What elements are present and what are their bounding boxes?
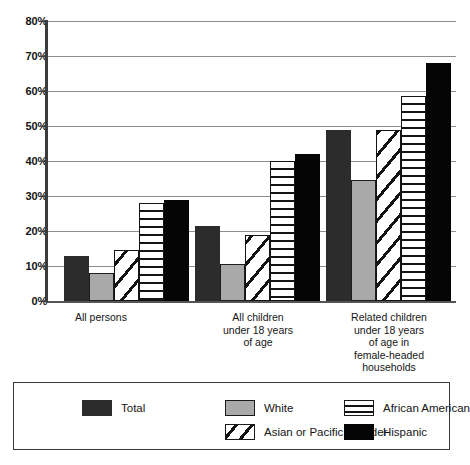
legend-swatch-hispanic	[344, 424, 374, 440]
legend-label-african: African American	[383, 402, 470, 415]
bar-group2-african	[270, 161, 295, 301]
bar-group1-white	[89, 273, 114, 301]
legend-item-african[interactable]: African American	[344, 400, 470, 416]
bar-group2-total	[195, 226, 220, 301]
bar-group3-total	[326, 130, 351, 302]
legend-swatch-total	[82, 400, 112, 416]
bar-group2-asian	[245, 235, 270, 302]
legend-swatch-asian	[225, 424, 255, 440]
bar-group3-white	[351, 180, 376, 301]
bar-group1-african	[139, 203, 164, 301]
legend-label-hispanic: Hispanic	[383, 426, 427, 439]
x-category-label-3-line-5: households	[309, 361, 469, 374]
bar-group1-hispanic	[164, 200, 189, 302]
bar-group2-hispanic	[295, 154, 320, 301]
plot-area: 0%10%20%30%40%50%60%70%80% All personsAl…	[0, 0, 464, 380]
x-category-label-1-line-1: All persons	[21, 311, 181, 324]
legend-label-white: White	[264, 402, 293, 415]
legend-item-hispanic[interactable]: Hispanic	[344, 424, 427, 440]
bar-group1-total	[64, 256, 89, 302]
bar-group2-white	[220, 264, 245, 301]
bar-group3-hispanic	[426, 63, 451, 301]
legend-label-total: Total	[121, 402, 145, 415]
x-category-label-3-line-2: under 18 years	[309, 324, 469, 337]
x-category-label-3-line-4: female-headed	[309, 349, 469, 362]
bar-group3-asian	[376, 130, 401, 302]
legend-item-white[interactable]: White	[225, 400, 293, 416]
legend-swatch-african	[344, 400, 374, 416]
bar-group1-asian	[114, 250, 139, 301]
x-category-label-3: Related childrenunder 18 yearsof age inf…	[309, 311, 469, 374]
x-category-label-3-line-1: Related children	[309, 311, 469, 324]
x-category-label-1: All persons	[21, 311, 181, 324]
legend-swatch-white	[225, 400, 255, 416]
chart-legend: TotalWhiteAsian or Pacific IslanderAfric…	[13, 382, 450, 450]
x-category-label-3-line-3: of age in	[309, 336, 469, 349]
legend-item-total[interactable]: Total	[82, 400, 145, 416]
bar-group3-african	[401, 96, 426, 301]
